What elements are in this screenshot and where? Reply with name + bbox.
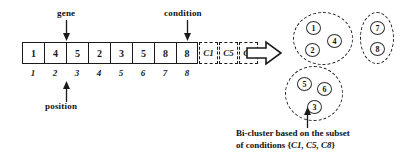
condition-label: condition <box>164 8 202 18</box>
position-pointer-arrow <box>62 80 71 102</box>
array-cell[interactable]: 5 <box>132 42 154 64</box>
caption-prefix: of conditions { <box>236 140 291 150</box>
cluster-node[interactable]: 4 <box>327 34 342 48</box>
array-cell[interactable]: 4 <box>44 42 66 64</box>
gene-label: gene <box>57 8 75 18</box>
position-index: 1 <box>22 66 44 80</box>
array-cell[interactable]: 5 <box>66 42 88 64</box>
position-index: 3 <box>66 66 88 80</box>
position-index-row: 1 2 3 4 5 6 7 8 <box>22 66 198 80</box>
bicluster-figure: gene condition 1 4 5 2 3 5 8 8 C1 C5 C8 … <box>0 0 404 163</box>
array-cell[interactable]: 8 <box>154 42 176 64</box>
condition-cell[interactable]: C1 <box>199 42 218 64</box>
cluster-node[interactable]: 8 <box>370 42 385 56</box>
transform-block-arrow <box>246 40 282 66</box>
position-index: 6 <box>132 66 154 80</box>
gene-pointer-arrow <box>62 20 71 42</box>
position-index: 7 <box>154 66 176 80</box>
array-cell[interactable]: 3 <box>110 42 132 64</box>
position-index: 4 <box>88 66 110 80</box>
caption-suffix: } <box>332 140 336 150</box>
cluster-node[interactable]: 1 <box>306 21 321 35</box>
position-label: position <box>45 101 77 111</box>
caption-line-1: Bi-cluster based on the subset <box>236 128 404 140</box>
condition-pointer-arrow <box>183 20 192 42</box>
cluster-node[interactable]: 6 <box>317 82 332 96</box>
gene-array: 1 4 5 2 3 5 8 8 C1 C5 C8 <box>22 42 259 64</box>
array-cell[interactable]: 8 <box>176 42 198 64</box>
cluster-node[interactable]: 2 <box>305 43 320 57</box>
caption-conditions: C1, C5, C8 <box>291 140 332 150</box>
cluster-a[interactable]: 1 4 2 <box>293 12 353 65</box>
position-index: 5 <box>110 66 132 80</box>
cluster-c[interactable]: 5 6 3 <box>285 66 343 121</box>
cluster-b[interactable]: 7 8 <box>360 12 394 64</box>
position-index: 2 <box>44 66 66 80</box>
caption-pointer-arrow <box>303 106 312 128</box>
array-cell[interactable]: 1 <box>22 42 44 64</box>
caption-line-2: of conditions {C1, C5, C8} <box>236 140 404 152</box>
position-index: 8 <box>176 66 198 80</box>
figure-caption: Bi-cluster based on the subset of condit… <box>236 128 404 151</box>
cluster-node[interactable]: 7 <box>370 21 385 35</box>
cluster-node[interactable]: 5 <box>297 77 312 91</box>
array-cell[interactable]: 2 <box>88 42 110 64</box>
condition-cell[interactable]: C5 <box>219 42 238 64</box>
